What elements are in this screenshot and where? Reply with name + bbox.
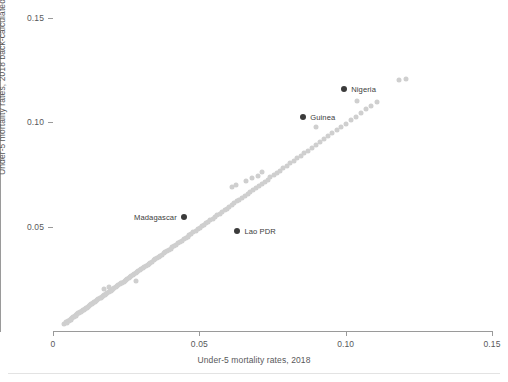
x-axis-line	[53, 331, 493, 332]
data-point	[314, 124, 319, 129]
data-point	[250, 175, 255, 180]
highlighted-point-guinea	[300, 114, 306, 120]
x-tick-1	[199, 331, 200, 336]
data-point	[244, 178, 249, 183]
data-point	[348, 118, 353, 123]
data-point	[358, 111, 363, 116]
data-point	[396, 78, 401, 83]
data-point	[339, 124, 344, 129]
data-point	[343, 121, 348, 126]
y-tick-label-0: 0.05	[8, 222, 44, 232]
x-tick-2	[346, 331, 347, 336]
data-point	[233, 182, 238, 187]
x-tick-label-1: 0.05	[191, 339, 208, 349]
data-point	[374, 99, 379, 104]
bottom-divider	[8, 373, 500, 374]
y-tick-0	[48, 227, 53, 228]
scatter-chart-figure: Under-5 mortality rates, 2018 back-calcu…	[0, 0, 508, 382]
data-point	[260, 169, 265, 174]
y-axis-title: Under-5 mortality rates, 2018 back-calcu…	[0, 0, 7, 175]
y-tick-1	[48, 122, 53, 123]
x-tick-0	[53, 331, 54, 336]
point-label-lao-pdr: Lao PDR	[244, 227, 276, 236]
top-divider	[0, 2, 508, 5]
data-point	[363, 107, 368, 112]
highlighted-point-madagascar	[181, 214, 187, 220]
data-point	[369, 103, 374, 108]
y-tick-label-1: 0.10	[8, 117, 44, 127]
x-tick-label-0: 0	[51, 339, 56, 349]
x-tick-3	[492, 331, 493, 336]
highlighted-point-lao-pdr	[234, 228, 240, 234]
point-label-nigeria: Nigeria	[351, 84, 376, 93]
point-label-guinea: Guinea	[310, 113, 335, 122]
y-tick-label-2: 0.15	[8, 13, 44, 23]
data-point	[403, 77, 408, 82]
data-point	[134, 278, 139, 283]
x-tick-label-3: 0.15	[484, 339, 501, 349]
x-tick-label-2: 0.10	[337, 339, 354, 349]
point-label-madagascar: Madagascar	[134, 213, 177, 222]
data-point	[355, 99, 360, 104]
data-point	[353, 114, 358, 119]
highlighted-point-nigeria	[341, 86, 347, 92]
y-tick-2	[48, 18, 53, 19]
x-axis-title: Under-5 mortality rates, 2018	[0, 355, 508, 365]
